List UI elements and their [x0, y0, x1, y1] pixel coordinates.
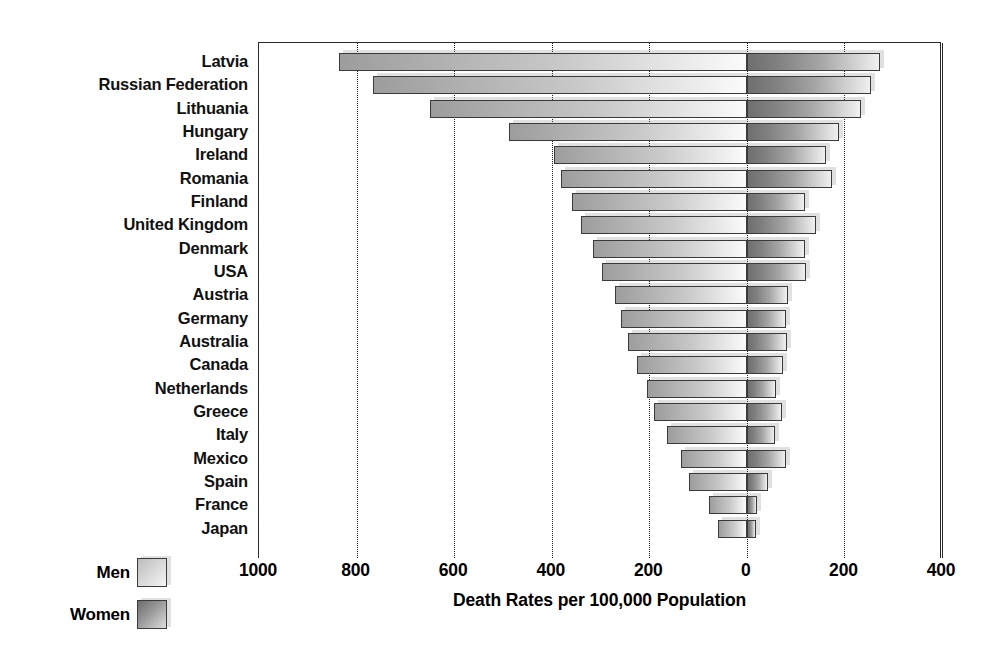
bar-row: [259, 123, 940, 141]
bar-women: [747, 356, 783, 374]
bar-men: [602, 263, 747, 281]
bar-row: [259, 403, 940, 421]
bar-men: [615, 286, 747, 304]
bar-men: [593, 240, 747, 258]
bar-men: [373, 76, 747, 94]
category-label: Ireland: [0, 146, 248, 163]
bar-row: [259, 426, 940, 444]
bar-women: [747, 450, 786, 468]
x-tick-label: 600: [439, 560, 468, 581]
bar-row: [259, 520, 940, 538]
category-label: Romania: [0, 170, 248, 187]
bar-men: [509, 123, 747, 141]
bar-women: [747, 333, 787, 351]
bar-women: [747, 473, 768, 491]
bar-row: [259, 240, 940, 258]
bar-women: [747, 286, 788, 304]
gridline: [942, 43, 943, 558]
bar-row: [259, 100, 940, 118]
bar-row: [259, 76, 940, 94]
bar-women: [747, 216, 816, 234]
legend-swatch-men: [137, 558, 167, 587]
category-label: Russian Federation: [0, 76, 248, 93]
bar-men: [621, 310, 747, 328]
legend-swatch-men-shadow: [141, 556, 171, 585]
legend-label-women: Women: [34, 605, 130, 625]
category-label: Australia: [0, 333, 248, 350]
x-tick-label: 400: [927, 560, 956, 581]
bar-men: [654, 403, 747, 421]
bar-men: [647, 380, 747, 398]
legend-label-men: Men: [34, 563, 130, 583]
category-axis-labels: LatviaRussian FederationLithuaniaHungary…: [0, 42, 248, 558]
x-axis-title: Death Rates per 100,000 Population: [258, 590, 941, 611]
category-label: Netherlands: [0, 380, 248, 397]
bar-women: [747, 403, 782, 421]
bar-women: [747, 100, 861, 118]
bar-men: [628, 333, 747, 351]
bar-women: [747, 310, 786, 328]
value-axis-ticks: 10008006004002000200400: [258, 560, 941, 586]
bar-women: [747, 240, 806, 258]
bar-row: [259, 216, 940, 234]
x-tick-label: 800: [341, 560, 370, 581]
bar-men: [554, 146, 747, 164]
bar-women: [747, 496, 757, 514]
category-label: Austria: [0, 286, 248, 303]
bar-men: [430, 100, 747, 118]
category-label: Hungary: [0, 123, 248, 140]
category-label: Japan: [0, 520, 248, 537]
bar-row: [259, 193, 940, 211]
bar-women: [747, 53, 880, 71]
legend-item-women: Women: [34, 600, 167, 629]
bar-row: [259, 333, 940, 351]
bar-women: [747, 76, 871, 94]
bar-men: [718, 520, 747, 538]
chart-legend: Men Women: [34, 556, 254, 636]
bar-men: [667, 426, 747, 444]
legend-item-men: Men: [34, 558, 167, 587]
bar-row: [259, 380, 940, 398]
category-label: Italy: [0, 426, 248, 443]
bar-women: [747, 193, 806, 211]
bar-men: [681, 450, 747, 468]
x-tick-label: 200: [634, 560, 663, 581]
legend-swatch-women: [137, 600, 167, 629]
bar-men: [689, 473, 747, 491]
bar-women: [747, 426, 775, 444]
bar-men: [339, 53, 746, 71]
bar-row: [259, 53, 940, 71]
category-label: Spain: [0, 473, 248, 490]
bar-men: [561, 170, 747, 188]
bar-women: [747, 380, 776, 398]
category-label: Greece: [0, 403, 248, 420]
bar-row: [259, 450, 940, 468]
x-tick-label: 0: [741, 560, 751, 581]
category-label: United Kingdom: [0, 216, 248, 233]
x-tick-label: 200: [829, 560, 858, 581]
bar-row: [259, 286, 940, 304]
category-label: Denmark: [0, 240, 248, 257]
x-tick-label: 400: [536, 560, 565, 581]
bar-row: [259, 146, 940, 164]
bar-men: [637, 356, 747, 374]
bar-row: [259, 473, 940, 491]
bar-women: [747, 263, 807, 281]
bar-women: [747, 520, 756, 538]
category-label: Canada: [0, 356, 248, 373]
bar-row: [259, 496, 940, 514]
category-label: Latvia: [0, 53, 248, 70]
legend-swatch-women-shadow: [141, 598, 171, 627]
category-label: Germany: [0, 310, 248, 327]
bar-women: [747, 146, 827, 164]
bar-men: [709, 496, 747, 514]
category-label: Mexico: [0, 450, 248, 467]
plot-area: [258, 42, 941, 558]
category-label: France: [0, 496, 248, 513]
category-label: USA: [0, 263, 248, 280]
bar-row: [259, 263, 940, 281]
bar-row: [259, 170, 940, 188]
bar-row: [259, 356, 940, 374]
bar-women: [747, 170, 832, 188]
category-label: Finland: [0, 193, 248, 210]
